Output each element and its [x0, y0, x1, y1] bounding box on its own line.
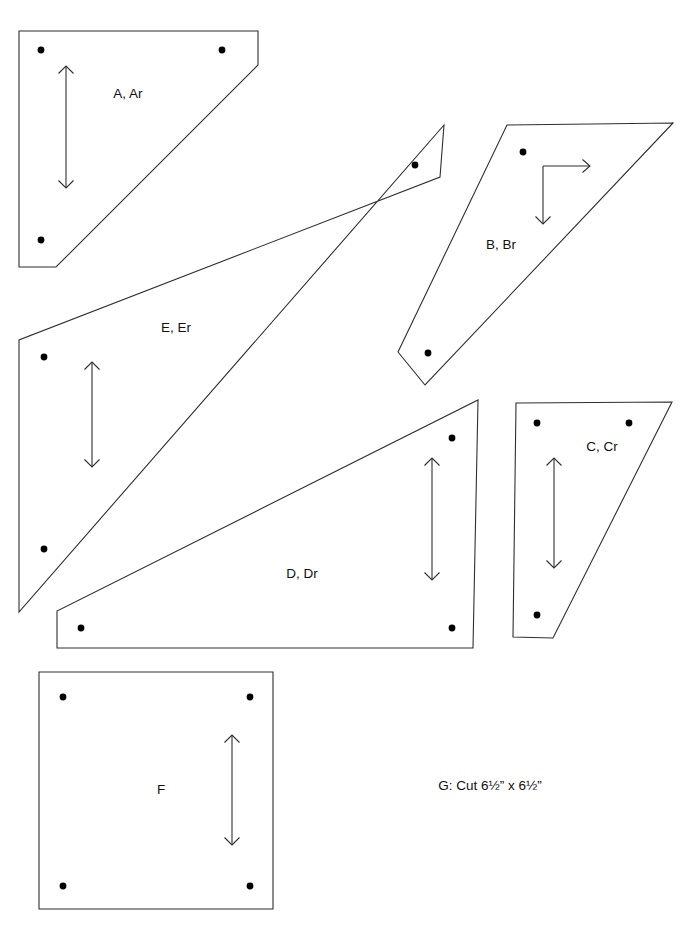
- piece-d-label: D, Dr: [286, 566, 318, 581]
- piece-b-label: B, Br: [486, 237, 517, 252]
- piece-a-dot-top-left: [38, 47, 45, 54]
- piece-e-label: E, Er: [161, 320, 192, 335]
- pattern-sheet: A, Ar B, Br C, C: [0, 0, 694, 933]
- piece-f-dot-top-right: [247, 694, 254, 701]
- piece-b-dot-top: [520, 149, 527, 156]
- piece-e-dot-left-upper: [41, 354, 48, 361]
- piece-c-dot-top-right: [626, 420, 633, 427]
- piece-f-label: F: [157, 782, 165, 797]
- piece-c-label: C, Cr: [586, 439, 618, 454]
- pattern-piece-f[interactable]: F: [39, 672, 273, 909]
- piece-c-dot-bottom-left: [534, 612, 541, 619]
- piece-f-dot-bottom-left: [60, 883, 67, 890]
- piece-g-cut-note: G: Cut 6½” x 6½”: [438, 778, 542, 793]
- pattern-piece-c[interactable]: C, Cr: [513, 402, 672, 638]
- piece-c-dot-top-left: [534, 420, 541, 427]
- piece-e-dot-top-right: [412, 162, 419, 169]
- piece-d-dot-top-right: [449, 435, 456, 442]
- pattern-piece-a[interactable]: A, Ar: [19, 31, 258, 267]
- piece-e-dot-left-lower: [41, 546, 48, 553]
- piece-a-dot-top-right: [219, 47, 226, 54]
- piece-b-dot-bottom: [425, 350, 432, 357]
- piece-d-dot-bottom-right: [449, 625, 456, 632]
- piece-f-dot-bottom-right: [247, 883, 254, 890]
- piece-c-outline[interactable]: [513, 402, 672, 638]
- piece-d-dot-bottom-left: [78, 625, 85, 632]
- piece-a-label: A, Ar: [113, 86, 143, 101]
- piece-f-dot-top-left: [60, 694, 67, 701]
- piece-a-outline[interactable]: [19, 31, 258, 267]
- piece-a-dot-bottom-left: [38, 237, 45, 244]
- pattern-canvas: A, Ar B, Br C, C: [0, 0, 694, 933]
